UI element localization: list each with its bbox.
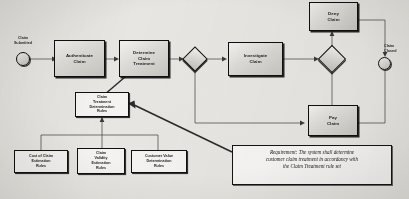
rule-customer-value-line3: Rules: [154, 164, 164, 169]
flow-deny-to-end: [358, 20, 385, 52]
activity-determine-claim-treatment[interactable]: Determine Claim Treatment: [119, 40, 169, 77]
start-event-label: Claim Submitted: [6, 36, 40, 46]
arrowhead: [330, 31, 335, 36]
activity-authenticate-claim-line2: Claim: [73, 59, 85, 65]
arrowhead: [100, 117, 105, 122]
start-event[interactable]: [16, 52, 30, 66]
activity-determine-claim-treatment-line3: Treatment: [133, 61, 154, 67]
requirement-note-line2: customer claim treatment in accordancy w…: [237, 156, 387, 163]
activity-deny-claim-line2: Claim: [327, 17, 339, 23]
arrowhead: [300, 121, 305, 126]
flow-note-to-rules: [132, 104, 232, 152]
activity-deny-claim[interactable]: Deny Claim: [309, 2, 358, 31]
rule-cost-of-claim-estimation[interactable]: Cost of Claim Estimation Rules: [14, 150, 68, 173]
rule-claim-treatment-line4: Rules: [97, 109, 107, 114]
end-event[interactable]: [378, 57, 391, 70]
rule-cost-of-claim-line3: Rules: [36, 164, 46, 169]
end-event-label: Claim Closed: [384, 44, 409, 54]
arrowhead: [128, 101, 136, 109]
activity-pay-claim-line2: Claim: [327, 121, 339, 127]
rule-claim-treatment-determination[interactable]: Claim Treatment Determination Rules: [75, 92, 129, 117]
activity-investigate-claim[interactable]: Investigate Claim: [228, 42, 283, 76]
rule-claim-validity-line4: Rules: [96, 166, 106, 171]
start-event-label-line2: Submitted: [6, 41, 40, 46]
requirement-note-line3: the Claim Treatment rule set: [237, 163, 387, 170]
diagram-canvas: Claim Submitted Authenticate Claim Deter…: [0, 0, 409, 199]
flow-pay-to-end: [358, 70, 385, 123]
flow-gateway1-to-pay: [195, 73, 300, 123]
rule-claim-validity-estimation[interactable]: Claim Validity Estimation Rules: [77, 148, 125, 174]
activity-investigate-claim-line2: Claim: [249, 59, 261, 65]
activity-authenticate-claim[interactable]: Authenticate Claim: [54, 40, 105, 77]
activity-pay-claim[interactable]: Pay Claim: [308, 105, 358, 136]
requirement-note[interactable]: Requirement: The system shall determine …: [232, 145, 392, 185]
end-event-label-line2: Closed: [384, 49, 409, 54]
arrowhead: [222, 57, 227, 62]
rule-customer-value-determination[interactable]: Customer Value Determination Rules: [131, 150, 187, 173]
requirement-note-line1: Requirement: The system shall determine: [237, 149, 387, 156]
